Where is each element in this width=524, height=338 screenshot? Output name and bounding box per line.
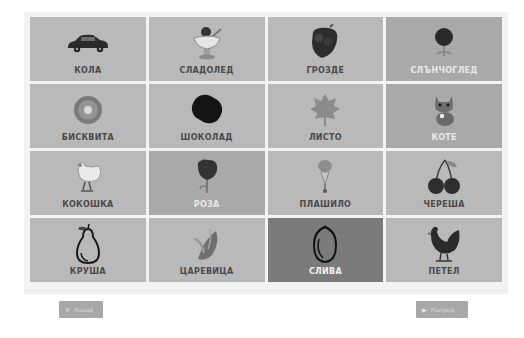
tile-plashilo[interactable]: ПЛАШИЛО (268, 151, 384, 215)
tile-label: КОЛА (74, 66, 101, 75)
tile-listo[interactable]: ЛИСТО (268, 84, 384, 148)
tile-label: ШОКОЛАД (181, 133, 233, 142)
tile-label: ПЛАШИЛО (300, 200, 352, 209)
tile-label: КОКОШКА (62, 200, 113, 209)
tile-label: СЛЪНЧОГЛЕД (410, 66, 477, 75)
tile-label: КОТЕ (431, 133, 456, 142)
tile-label: ГРОЗДЕ (306, 66, 344, 75)
scarecrow-icon (302, 157, 348, 197)
tile-label: СЛАДОЛЕД (179, 66, 233, 75)
tile-petel[interactable]: ПЕТЕЛ (386, 218, 502, 282)
next-button-label: Напред (431, 306, 455, 313)
ice-cream-icon (184, 23, 230, 63)
grapes-icon (302, 23, 348, 63)
tile-label: ЧЕРЕША (424, 200, 465, 209)
tile-roza[interactable]: РОЗА (149, 151, 265, 215)
tile-sladoled[interactable]: СЛАДОЛЕД (149, 17, 265, 81)
footer-divider (24, 290, 508, 291)
rose-icon (184, 157, 230, 197)
tile-label: БИСКВИТА (62, 133, 114, 142)
kitten-icon (421, 90, 467, 130)
chocolate-icon (184, 90, 230, 130)
tile-label: РОЗА (194, 200, 220, 209)
tile-label: ЛИСТО (309, 133, 342, 142)
corn-icon (184, 224, 230, 264)
tile-kote[interactable]: КОТЕ (386, 84, 502, 148)
back-button-label: Назад (74, 306, 93, 313)
tile-cheresha[interactable]: ЧЕРЕША (386, 151, 502, 215)
tile-slanchogled[interactable]: СЛЪНЧОГЛЕД (386, 17, 502, 81)
tile-grozde[interactable]: ГРОЗДЕ (268, 17, 384, 81)
tile-label: КРУША (70, 267, 106, 276)
tile-shokolad[interactable]: ШОКОЛАД (149, 84, 265, 148)
cherry-icon (421, 157, 467, 197)
car-icon (65, 23, 111, 63)
back-button[interactable]: ✕ Назад (59, 301, 103, 318)
tile-biskvita[interactable]: БИСКВИТА (30, 84, 146, 148)
next-button[interactable]: ▶ Напред (416, 301, 468, 318)
tile-kola[interactable]: КОЛА (30, 17, 146, 81)
tile-sliva[interactable]: СЛИВА (268, 218, 384, 282)
pear-icon (65, 224, 111, 264)
tile-kokoshka[interactable]: КОКОШКА (30, 151, 146, 215)
tile-krusha[interactable]: КРУША (30, 218, 146, 282)
leaf-icon (302, 90, 348, 130)
play-icon: ▶ (422, 306, 427, 313)
picture-grid: КОЛА СЛАДОЛЕД ГРОЗДЕ СЛЪНЧОГЛЕД БИСКВИТА… (30, 17, 502, 282)
hen-icon (65, 157, 111, 197)
sunflower-icon (421, 23, 467, 63)
plum-icon (302, 224, 348, 264)
tile-label: СЛИВА (309, 267, 342, 276)
tile-label: ПЕТЕЛ (429, 267, 460, 276)
tile-label: ЦАРЕВИЦА (180, 267, 234, 276)
rooster-icon (421, 224, 467, 264)
close-icon: ✕ (65, 306, 70, 313)
tile-tsarevitsa[interactable]: ЦАРЕВИЦА (149, 218, 265, 282)
cookie-icon (65, 90, 111, 130)
